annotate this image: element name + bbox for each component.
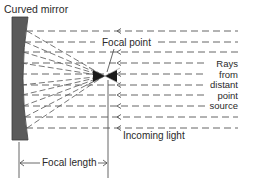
rays-source-label: Rays from distant point source [207, 59, 238, 112]
focal-point-marker [89, 68, 120, 84]
focal-point-label: Focal point [100, 38, 153, 48]
curved-mirror-shape [12, 17, 28, 140]
rays-source-line-5: source [207, 101, 238, 112]
focal-length-label: Focal length [40, 158, 98, 168]
diagram-title: Curved mirror [4, 4, 68, 15]
incoming-light-label: Incoming light [123, 131, 185, 141]
rays-source-line-1: Rays [207, 59, 238, 70]
reflected-rays [21, 31, 104, 128]
